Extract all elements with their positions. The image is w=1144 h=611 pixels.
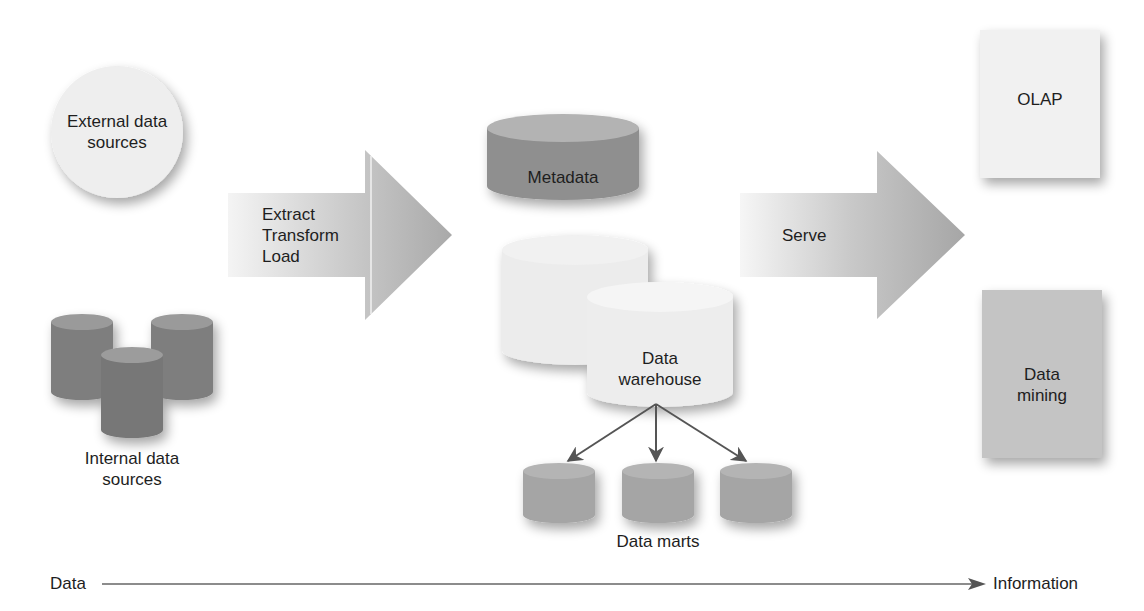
data-marts-label: Data marts — [593, 531, 723, 552]
metadata-label: Metadata — [503, 167, 623, 188]
diagram-canvas — [0, 0, 1144, 611]
internal-data-sources-cylinders — [51, 314, 213, 438]
etl-transform: Transform — [262, 225, 339, 246]
internal-data-sources-label: Internal data sources — [62, 448, 202, 490]
external-label-line1: External data — [47, 111, 187, 132]
warehouse-label-line1: Data — [600, 348, 720, 369]
mining-label-line2: mining — [1002, 385, 1082, 406]
serve-arrow — [740, 151, 965, 319]
data-mart-arrows — [568, 404, 746, 461]
etl-load: Load — [262, 246, 339, 267]
olap-label: OLAP — [1000, 89, 1080, 110]
etl-label: Extract Transform Load — [262, 204, 339, 267]
data-warehouse-label: Data warehouse — [600, 348, 720, 390]
warehouse-label-line2: warehouse — [600, 369, 720, 390]
serve-label: Serve — [782, 225, 826, 246]
external-data-sources-label: External data sources — [47, 111, 187, 153]
data-mining-label: Data mining — [1002, 364, 1082, 406]
etl-extract: Extract — [262, 204, 339, 225]
mining-label-line1: Data — [1002, 364, 1082, 385]
data-to-information-axis — [102, 578, 986, 590]
internal-label-line1: Internal data — [62, 448, 202, 469]
data-marts-cylinders — [523, 463, 792, 523]
internal-label-line2: sources — [62, 469, 202, 490]
axis-start-label: Data — [50, 573, 86, 594]
axis-end-label: Information — [993, 573, 1078, 594]
external-label-line2: sources — [47, 132, 187, 153]
